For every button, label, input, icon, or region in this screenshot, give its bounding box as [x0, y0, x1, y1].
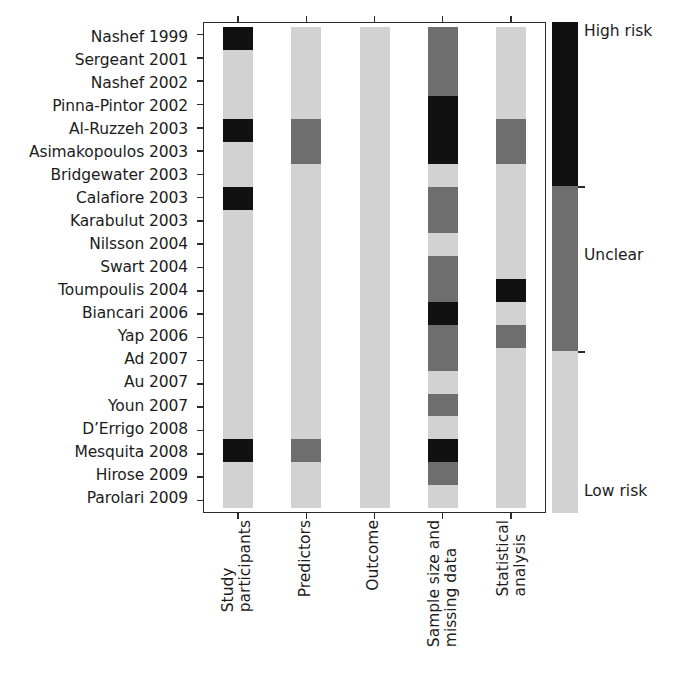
heatmap-cell[interactable] — [223, 416, 253, 439]
heatmap-cell[interactable] — [428, 325, 458, 348]
heatmap-cell[interactable] — [291, 302, 321, 325]
heatmap-cell[interactable] — [223, 439, 253, 462]
heatmap-cell[interactable] — [496, 233, 526, 256]
heatmap-cell[interactable] — [496, 50, 526, 73]
heatmap-cell[interactable] — [428, 348, 458, 371]
heatmap-cell[interactable] — [428, 279, 458, 302]
heatmap-cell[interactable] — [291, 439, 321, 462]
heatmap-cell[interactable] — [291, 348, 321, 371]
heatmap-cell[interactable] — [428, 210, 458, 233]
heatmap-cell[interactable] — [291, 50, 321, 73]
heatmap-cell[interactable] — [428, 142, 458, 165]
heatmap-cell[interactable] — [428, 439, 458, 462]
heatmap-cell[interactable] — [360, 27, 390, 50]
heatmap-cell[interactable] — [428, 371, 458, 394]
heatmap-cell[interactable] — [291, 142, 321, 165]
heatmap-cell[interactable] — [223, 256, 253, 279]
heatmap-cell[interactable] — [223, 325, 253, 348]
heatmap-cell[interactable] — [496, 302, 526, 325]
heatmap-cell[interactable] — [496, 394, 526, 417]
heatmap-cell[interactable] — [223, 73, 253, 96]
heatmap-cell[interactable] — [291, 164, 321, 187]
heatmap-cell[interactable] — [496, 187, 526, 210]
heatmap-cell[interactable] — [496, 325, 526, 348]
heatmap-cell[interactable] — [291, 279, 321, 302]
heatmap-cell[interactable] — [496, 142, 526, 165]
heatmap-cell[interactable] — [360, 302, 390, 325]
heatmap-cell[interactable] — [496, 119, 526, 142]
heatmap-cell[interactable] — [428, 256, 458, 279]
heatmap-cell[interactable] — [223, 233, 253, 256]
heatmap-cell[interactable] — [223, 371, 253, 394]
heatmap-cell[interactable] — [360, 348, 390, 371]
heatmap-cell[interactable] — [291, 462, 321, 485]
heatmap-cell[interactable] — [223, 462, 253, 485]
heatmap-cell[interactable] — [496, 416, 526, 439]
heatmap-cell[interactable] — [360, 325, 390, 348]
heatmap-cell[interactable] — [496, 439, 526, 462]
heatmap-cell[interactable] — [428, 164, 458, 187]
heatmap-cell[interactable] — [428, 187, 458, 210]
heatmap-cell[interactable] — [428, 27, 458, 50]
heatmap-cell[interactable] — [223, 164, 253, 187]
heatmap-cell[interactable] — [360, 96, 390, 119]
heatmap-cell[interactable] — [360, 164, 390, 187]
heatmap-cell[interactable] — [291, 371, 321, 394]
heatmap-cell[interactable] — [291, 96, 321, 119]
heatmap-cell[interactable] — [223, 50, 253, 73]
heatmap-cell[interactable] — [428, 462, 458, 485]
heatmap-cell[interactable] — [428, 394, 458, 417]
heatmap-cell[interactable] — [223, 119, 253, 142]
heatmap-cell[interactable] — [360, 394, 390, 417]
heatmap-cell[interactable] — [223, 302, 253, 325]
heatmap-cell[interactable] — [223, 210, 253, 233]
heatmap-cell[interactable] — [360, 119, 390, 142]
heatmap-cell[interactable] — [291, 485, 321, 508]
heatmap-cell[interactable] — [360, 233, 390, 256]
heatmap-cell[interactable] — [223, 187, 253, 210]
heatmap-cell[interactable] — [428, 96, 458, 119]
heatmap-cell[interactable] — [360, 462, 390, 485]
heatmap-cell[interactable] — [428, 50, 458, 73]
heatmap-cell[interactable] — [360, 142, 390, 165]
heatmap-cell[interactable] — [291, 187, 321, 210]
heatmap-cell[interactable] — [496, 96, 526, 119]
heatmap-cell[interactable] — [360, 279, 390, 302]
heatmap-cell[interactable] — [360, 416, 390, 439]
heatmap-cell[interactable] — [428, 119, 458, 142]
heatmap-cell[interactable] — [223, 394, 253, 417]
heatmap-cell[interactable] — [428, 233, 458, 256]
heatmap-cell[interactable] — [223, 27, 253, 50]
heatmap-cell[interactable] — [428, 302, 458, 325]
heatmap-cell[interactable] — [291, 416, 321, 439]
heatmap-cell[interactable] — [291, 394, 321, 417]
heatmap-cell[interactable] — [496, 371, 526, 394]
heatmap-cell[interactable] — [496, 279, 526, 302]
heatmap-cell[interactable] — [496, 73, 526, 96]
heatmap-cell[interactable] — [291, 27, 321, 50]
heatmap-cell[interactable] — [360, 439, 390, 462]
heatmap-cell[interactable] — [291, 119, 321, 142]
heatmap-cell[interactable] — [223, 485, 253, 508]
heatmap-cell[interactable] — [291, 256, 321, 279]
heatmap-cell[interactable] — [428, 485, 458, 508]
heatmap-cell[interactable] — [496, 462, 526, 485]
heatmap-cell[interactable] — [360, 210, 390, 233]
heatmap-cell[interactable] — [360, 50, 390, 73]
heatmap-cell[interactable] — [428, 73, 458, 96]
heatmap-cell[interactable] — [496, 485, 526, 508]
heatmap-cell[interactable] — [360, 371, 390, 394]
heatmap-cell[interactable] — [223, 348, 253, 371]
heatmap-cell[interactable] — [291, 73, 321, 96]
heatmap-cell[interactable] — [428, 416, 458, 439]
heatmap-cell[interactable] — [360, 73, 390, 96]
heatmap-cell[interactable] — [223, 142, 253, 165]
heatmap-cell[interactable] — [223, 279, 253, 302]
heatmap-cell[interactable] — [360, 485, 390, 508]
heatmap-cell[interactable] — [496, 348, 526, 371]
heatmap-cell[interactable] — [496, 256, 526, 279]
heatmap-cell[interactable] — [496, 210, 526, 233]
heatmap-cell[interactable] — [291, 325, 321, 348]
heatmap-cell[interactable] — [360, 187, 390, 210]
heatmap-cell[interactable] — [223, 96, 253, 119]
